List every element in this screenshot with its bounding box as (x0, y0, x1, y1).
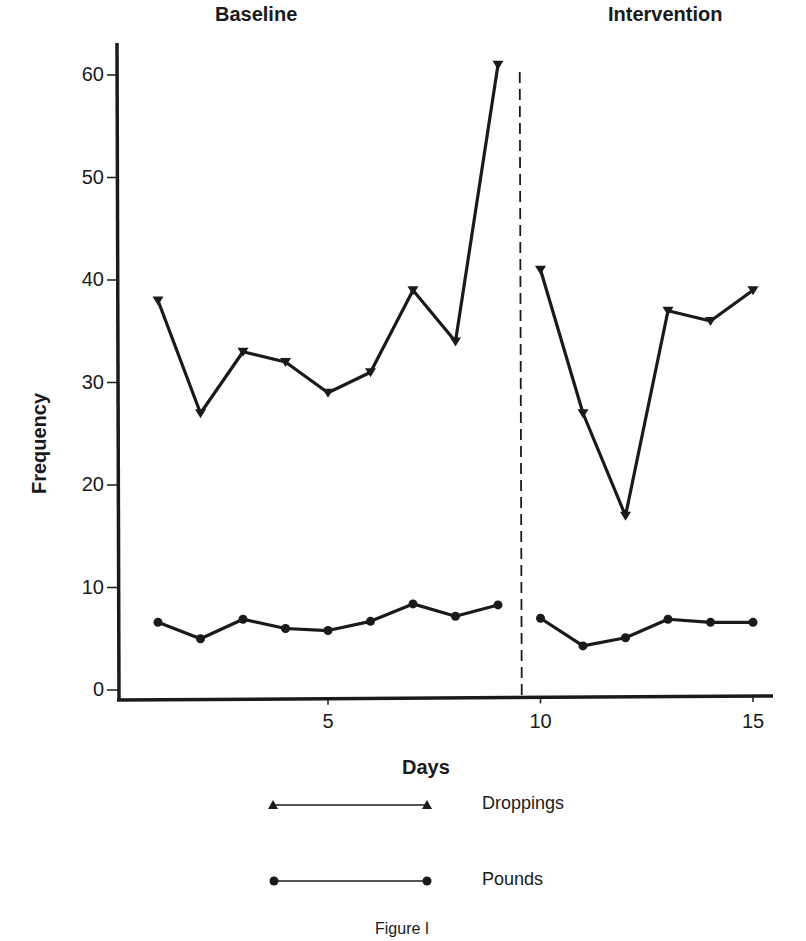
figure-caption: Figure I (375, 920, 429, 938)
triangle-marker-icon (578, 409, 589, 418)
circle-marker-icon (451, 612, 460, 621)
series-droppings (153, 61, 759, 521)
circle-marker-icon (270, 877, 279, 886)
triangle-marker-icon (535, 266, 546, 275)
circle-marker-icon (621, 633, 630, 642)
y-axis-title: Frequency (28, 389, 51, 499)
x-tick-label: 10 (521, 710, 561, 733)
phase-label-intervention: Intervention (608, 3, 722, 26)
y-tick-label: 30 (64, 371, 104, 394)
x-tick-label: 15 (733, 710, 773, 733)
circle-marker-icon (324, 626, 333, 635)
triangle-marker-icon (153, 297, 164, 306)
y-tick-label: 40 (64, 268, 104, 291)
legend-label-droppings: Droppings (482, 793, 564, 814)
y-tick-label: 0 (64, 678, 104, 701)
circle-marker-icon (579, 641, 588, 650)
triangle-marker-icon (195, 409, 206, 418)
circle-marker-icon (536, 614, 545, 623)
y-tick-label: 60 (64, 63, 104, 86)
legend-droppings-swatch (268, 800, 432, 809)
circle-marker-icon (154, 618, 163, 627)
phase-label-baseline: Baseline (215, 3, 297, 26)
circle-marker-icon (494, 600, 503, 609)
circle-marker-icon (196, 634, 205, 643)
series-pounds (154, 599, 758, 650)
legend-label-pounds: Pounds (482, 869, 543, 890)
legend (268, 800, 432, 886)
axes (107, 43, 773, 705)
circle-marker-icon (409, 599, 418, 608)
circle-marker-icon (749, 618, 758, 627)
legend-pounds-swatch (270, 877, 432, 886)
phase-change-line (520, 72, 522, 696)
circle-marker-icon (281, 624, 290, 633)
triangle-marker-icon (493, 61, 504, 70)
y-axis-line (117, 43, 119, 701)
triangle-marker-icon (323, 389, 334, 398)
y-tick-label: 10 (64, 576, 104, 599)
x-axis-line (117, 696, 773, 700)
y-tick-label: 20 (64, 473, 104, 496)
circle-marker-icon (366, 617, 375, 626)
chart-canvas (0, 0, 806, 941)
y-tick-label: 50 (64, 166, 104, 189)
circle-marker-icon (706, 618, 715, 627)
circle-marker-icon (423, 877, 432, 886)
circle-marker-icon (239, 615, 248, 624)
x-axis-title: Days (402, 756, 450, 779)
triangle-marker-icon (450, 338, 461, 347)
x-tick-label: 5 (308, 710, 348, 733)
circle-marker-icon (664, 615, 673, 624)
triangle-marker-icon (620, 512, 631, 521)
